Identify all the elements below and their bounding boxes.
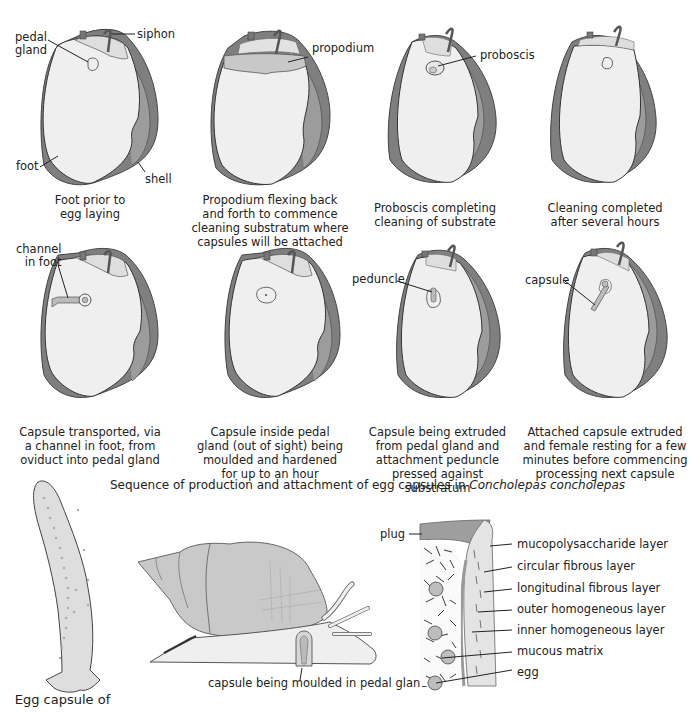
label-shell: shell bbox=[145, 173, 172, 186]
panel-cleaning-complete: Cleaning completedafter several hours bbox=[530, 0, 692, 230]
label-inner-homogeneous-layer: inner homogeneous layer bbox=[517, 623, 664, 637]
caption-panel-5: Capsule transported, viaa channel in foo… bbox=[10, 425, 170, 467]
label-channel-in-foot: channel in foot bbox=[16, 243, 62, 269]
label-plug: plug bbox=[380, 527, 405, 541]
figure-title: Sequence of production and attachment of… bbox=[110, 478, 625, 492]
label-siphon: siphon bbox=[137, 28, 175, 41]
panel-capsule-moulded: Capsule inside pedalgland (out of sight)… bbox=[180, 235, 360, 475]
panel-snail-side: capsule being moulded in pedal gland bbox=[130, 510, 400, 700]
snail-foot-illustration bbox=[530, 0, 692, 230]
panel-capsule-extruded: peduncle Capsule being extrudedfrom peda… bbox=[360, 235, 530, 475]
panel-propodium: propodium Propodium flexing backand fort… bbox=[180, 0, 360, 245]
label-longitudinal-fibrous-layer: longitudinal fibrous layer bbox=[517, 581, 660, 595]
label-capsule: capsule bbox=[525, 274, 569, 287]
panel-capsule-attached: capsule Attached capsule extrudedand fem… bbox=[525, 235, 692, 475]
caption-panel-3: Proboscis completingcleaning of substrat… bbox=[360, 201, 510, 229]
label-foot: foot bbox=[16, 160, 39, 173]
egg-capsule-illustration bbox=[0, 480, 130, 690]
label-pedal-gland: pedal gland bbox=[15, 31, 47, 57]
panel-foot-prior: pedal gland siphon foot shell Foot prior… bbox=[0, 0, 175, 230]
panel-capsule-transport: channel in foot Capsule transported, via… bbox=[0, 235, 175, 465]
caption-panel-6: Capsule inside pedalgland (out of sight)… bbox=[185, 425, 355, 481]
caption-egg-capsule: Egg capsule of bbox=[5, 693, 120, 707]
snail-side-illustration bbox=[130, 510, 400, 680]
panel-proboscis: proboscis Proboscis completingcleaning o… bbox=[360, 0, 530, 230]
label-circular-fibrous-layer: circular fibrous layer bbox=[517, 559, 635, 573]
caption-panel-4: Cleaning completedafter several hours bbox=[530, 201, 680, 229]
label-mucopolysaccharide-layer: mucopolysaccharide layer bbox=[517, 537, 668, 551]
label-mucous-matrix: mucous matrix bbox=[517, 644, 603, 658]
panel-capsule-wall: plug mucopolysaccharide layer circular f… bbox=[380, 510, 692, 700]
label-egg: egg bbox=[517, 665, 539, 679]
label-proboscis: proboscis bbox=[480, 49, 535, 62]
snail-foot-illustration bbox=[360, 0, 530, 230]
label-peduncle: peduncle bbox=[352, 273, 405, 286]
caption-panel-1: Foot prior toegg laying bbox=[30, 193, 150, 221]
caption-panel-8: Attached capsule extrudedand female rest… bbox=[520, 425, 690, 481]
panel-egg-capsule: Egg capsule of bbox=[0, 480, 130, 712]
label-outer-homogeneous-layer: outer homogeneous layer bbox=[517, 602, 665, 616]
